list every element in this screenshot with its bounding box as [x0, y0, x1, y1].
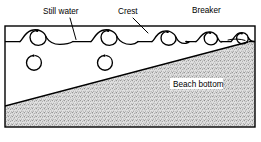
wave-1-deep-orbit-dot — [33, 55, 35, 57]
wave-4-orbit-dot — [209, 32, 211, 34]
label-still-water: Still water — [43, 7, 79, 16]
wave-5-orbit-dot — [241, 32, 243, 34]
wave-breaker-figure: Still water Crest Breaker Beach bottom — [0, 0, 261, 142]
label-breaker: Breaker — [192, 6, 221, 15]
wave-1-orbit-dot — [36, 30, 39, 33]
label-crest: Crest — [118, 7, 138, 16]
label-beach-bottom: Beach bottom — [173, 80, 224, 89]
wave-3-orbit-dot — [166, 31, 168, 33]
beach-bottom-label-group: Beach bottom — [170, 78, 224, 89]
wave-diagram: Still water Crest Breaker Beach bottom — [0, 0, 261, 142]
wave-2-orbit-dot — [107, 30, 110, 33]
wave-2-deep-orbit-dot — [104, 55, 106, 57]
